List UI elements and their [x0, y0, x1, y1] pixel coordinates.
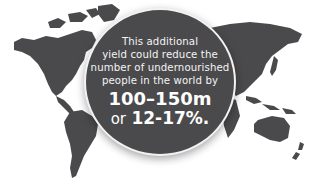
or-label: or — [111, 110, 126, 128]
south-america-shape — [64, 110, 98, 178]
text-line-1: This additional — [122, 35, 198, 48]
text-line-4: people in the world by — [102, 74, 218, 87]
percentage-line: or 12-17%. — [111, 109, 210, 129]
percentage-value: 12-17%. — [131, 108, 209, 128]
australia-shape — [254, 116, 290, 142]
highlight-range: 100–150m — [109, 89, 212, 109]
text-line-3: number of undernourished — [91, 61, 230, 74]
text-line-2: yield could reduce the — [102, 48, 218, 61]
info-circle: This additional yield could reduce the n… — [84, 8, 236, 156]
